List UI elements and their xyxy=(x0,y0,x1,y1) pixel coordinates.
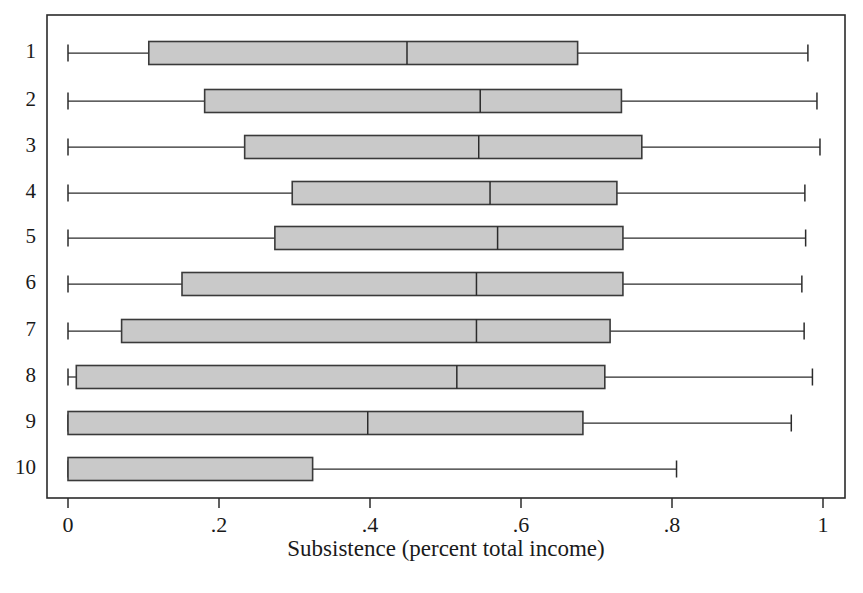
box-plot-figure: 0.2.4.6.81 12345678910 Subsistence (perc… xyxy=(0,0,863,593)
box-plot-row xyxy=(68,42,808,65)
box-rect xyxy=(76,366,605,389)
box-rect xyxy=(182,273,623,296)
box-plot-row xyxy=(68,136,820,159)
x-tick-label: 0 xyxy=(63,512,74,537)
box-rect xyxy=(275,227,623,250)
y-tick-label: 6 xyxy=(26,270,37,294)
box-rect xyxy=(149,42,578,65)
chart-container: 0.2.4.6.81 12345678910 Subsistence (perc… xyxy=(0,0,863,593)
box-rect xyxy=(292,182,617,205)
x-tick-label: .2 xyxy=(211,512,228,537)
box-rect xyxy=(68,458,313,481)
box-rect xyxy=(205,90,622,113)
box-plot-row xyxy=(68,90,817,113)
y-tick-label: 10 xyxy=(15,455,36,479)
x-tick-label: 1 xyxy=(818,512,829,537)
box-plot-row xyxy=(68,412,791,435)
y-tick-label: 8 xyxy=(26,363,37,387)
y-axis-labels: 12345678910 xyxy=(15,39,37,479)
y-tick-label: 2 xyxy=(26,87,37,111)
boxes-layer xyxy=(68,42,820,481)
x-axis-ticks: 0.2.4.6.81 xyxy=(63,498,829,537)
box-rect xyxy=(68,412,583,435)
box-plot-row xyxy=(68,182,805,205)
y-tick-label: 9 xyxy=(26,409,37,433)
box-rect xyxy=(245,136,642,159)
box-rect xyxy=(122,320,610,343)
x-tick-label: .4 xyxy=(362,512,379,537)
box-plot-row xyxy=(68,458,677,481)
box-plot-row xyxy=(68,227,806,250)
y-tick-label: 5 xyxy=(26,224,37,248)
x-tick-label: .8 xyxy=(664,512,681,537)
x-axis-title: Subsistence (percent total income) xyxy=(287,536,604,561)
box-plot-row xyxy=(68,273,802,296)
y-tick-label: 7 xyxy=(26,317,37,341)
box-plot-row xyxy=(68,366,812,389)
y-tick-label: 4 xyxy=(26,179,37,203)
x-tick-label: .6 xyxy=(513,512,530,537)
box-plot-row xyxy=(68,320,804,343)
y-tick-label: 3 xyxy=(26,133,37,157)
y-tick-label: 1 xyxy=(26,39,37,63)
